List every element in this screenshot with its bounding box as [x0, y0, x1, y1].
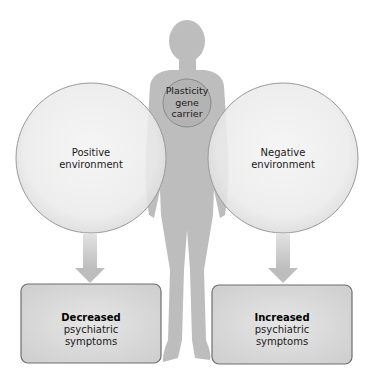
- increased-line-1: psychiatric: [222, 324, 342, 336]
- increased-line-2: symptoms: [222, 336, 342, 348]
- gene-label-line-1: Plasticity: [157, 85, 217, 97]
- gene-label-line-2: gene: [157, 97, 217, 109]
- positive-label-line-1: Positive: [41, 147, 141, 159]
- arrow-down-right-icon: [268, 234, 298, 283]
- increased-outcome-label: Increased psychiatric symptoms: [222, 312, 342, 348]
- negative-environment-label: Negative environment: [233, 147, 333, 171]
- gene-label-line-3: carrier: [157, 108, 217, 120]
- increased-label: Increased: [222, 312, 342, 324]
- gene-carrier-label: Plasticity gene carrier: [157, 85, 217, 120]
- decreased-outcome-label: Decreased psychiatric symptoms: [31, 312, 151, 348]
- negative-label-line-1: Negative: [233, 147, 333, 159]
- positive-environment-label: Positive environment: [41, 147, 141, 171]
- arrow-down-left-icon: [75, 234, 105, 283]
- positive-label-line-2: environment: [41, 159, 141, 171]
- decreased-line-1: psychiatric: [31, 324, 151, 336]
- decreased-line-2: symptoms: [31, 336, 151, 348]
- negative-label-line-2: environment: [233, 159, 333, 171]
- decreased-label: Decreased: [31, 312, 151, 324]
- plasticity-diagram: Plasticity gene carrier Positive environ…: [0, 0, 373, 380]
